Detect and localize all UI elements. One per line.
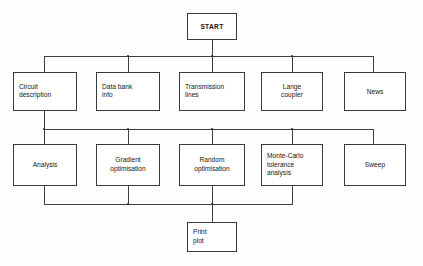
connector-drop-top-1 [44, 56, 45, 72]
node-analysis-label: Analysis [14, 161, 76, 170]
connector-drop-mid-2 [128, 129, 129, 144]
junction-dot-top-4 [291, 55, 293, 57]
node-gradient-optimisation: Gradient optimisation [96, 144, 160, 186]
node-random-optimisation: Random optimisation [179, 144, 245, 186]
junction-dot-mid-1 [43, 128, 45, 130]
connector-stem-analysis [44, 186, 45, 204]
connector-drop-mid-1 [44, 129, 45, 144]
node-sweep: Sweep [344, 144, 406, 186]
junction-dot-mid-4 [291, 128, 293, 130]
connector-drop-mid-3 [212, 129, 213, 144]
junction-dot-mid-3 [211, 128, 213, 130]
node-sweep-label: Sweep [345, 161, 405, 170]
node-start: START [187, 13, 237, 40]
node-lange-coupler-label: Lange coupler [262, 83, 322, 100]
connector-drop-mid-5 [373, 129, 374, 144]
node-start-label: START [188, 22, 236, 31]
node-data-bank-info-label: Data bank info [97, 83, 159, 100]
node-print-plot: Print plot [187, 222, 237, 252]
junction-dot-bottom-3 [211, 203, 213, 205]
connector-drop-mid-4 [292, 129, 293, 144]
connector-start-stem [212, 40, 213, 56]
junction-dot-mid-2 [127, 128, 129, 130]
junction-dot-top-2 [127, 55, 129, 57]
connector-drop-top-3 [212, 56, 213, 72]
node-news-label: News [345, 87, 405, 96]
junction-dot-bottom-2 [127, 203, 129, 205]
connector-middle-bus [44, 129, 374, 130]
node-gradient-optimisation-label: Gradient optimisation [97, 156, 159, 173]
node-transmission-lines-label: Transmission lines [180, 83, 244, 100]
node-print-plot-label: Print plot [188, 228, 236, 245]
connector-print-plot-stem [212, 204, 213, 222]
node-circuit-description: Circuit description [13, 72, 77, 111]
node-lange-coupler: Lange coupler [261, 72, 323, 111]
connector-circuit-description-stem [44, 111, 45, 129]
node-news: News [344, 72, 406, 111]
node-analysis: Analysis [13, 144, 77, 186]
connector-bottom-bus [44, 204, 293, 205]
node-circuit-description-label: Circuit description [14, 83, 76, 100]
connector-stem-monte-carlo [292, 186, 293, 204]
node-transmission-lines: Transmission lines [179, 72, 245, 111]
connector-drop-top-2 [128, 56, 129, 72]
connector-stem-random [212, 186, 213, 204]
junction-dot-top-3 [211, 55, 213, 57]
node-data-bank-info: Data bank info [96, 72, 160, 111]
connector-stem-gradient [128, 186, 129, 204]
connector-top-bus [44, 56, 374, 57]
node-monte-carlo-tolerance-analysis: Monte-Carlo tolerance analysis [261, 144, 323, 186]
connector-drop-top-4 [292, 56, 293, 72]
connector-drop-top-5 [373, 56, 374, 72]
node-monte-carlo-tolerance-analysis-label: Monte-Carlo tolerance analysis [262, 152, 322, 178]
flowchart-canvas: START Circuit description Data bank info… [0, 0, 423, 266]
node-random-optimisation-label: Random optimisation [180, 156, 244, 173]
